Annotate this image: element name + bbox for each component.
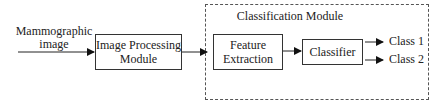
classification-module-title: Classification Module	[205, 10, 375, 23]
classifier-box: Classifier	[302, 39, 363, 65]
feature-extraction-line1: Feature	[223, 38, 273, 52]
feature-extraction-line2: Extraction	[223, 52, 273, 66]
classifier-label: Classifier	[310, 45, 356, 59]
input-label: Mammographic image	[14, 25, 94, 51]
class1-label: Class 1	[389, 35, 424, 48]
image-processing-line2: Module	[96, 52, 181, 66]
image-processing-module-box: Image Processing Module	[95, 34, 182, 70]
input-label-line2: image	[14, 38, 94, 51]
class2-label: Class 2	[389, 53, 424, 66]
image-processing-line1: Image Processing	[96, 38, 181, 52]
feature-extraction-box: Feature Extraction	[213, 34, 283, 70]
